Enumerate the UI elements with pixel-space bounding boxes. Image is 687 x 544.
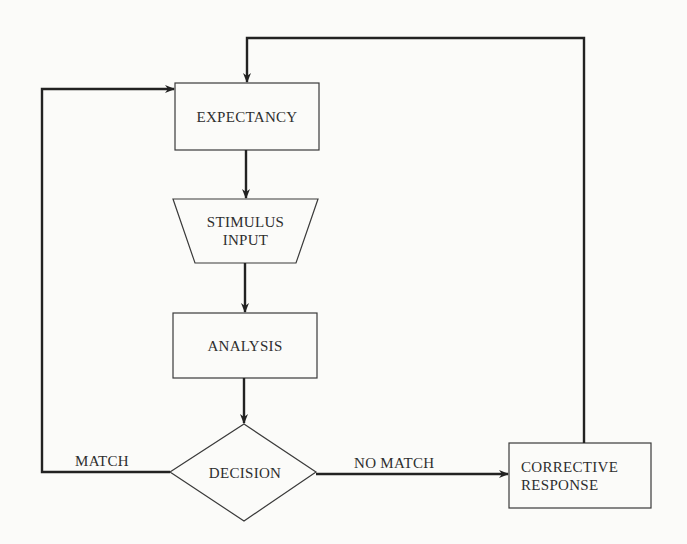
stimulus-text: STIMULUS [207,213,284,231]
response-text: RESPONSE [521,476,598,494]
analysis-text: ANALYSIS [207,337,282,355]
match-edge-label: MATCH [75,452,129,470]
no-match-text: NO MATCH [354,455,434,471]
decision-label: DECISION [190,462,300,484]
expectancy-text: EXPECTANCY [197,108,298,126]
analysis-label: ANALYSIS [173,313,317,378]
arrow-match-loop [42,89,174,472]
match-text: MATCH [75,453,129,469]
corrective-response-label: CORRECTIVE RESPONSE [509,443,651,508]
decision-text: DECISION [209,464,281,482]
no-match-edge-label: NO MATCH [354,454,434,472]
input-text: INPUT [223,231,269,249]
expectancy-label: EXPECTANCY [175,83,319,150]
corrective-text: CORRECTIVE [521,458,618,476]
stimulus-input-label: STIMULUS INPUT [183,201,308,261]
